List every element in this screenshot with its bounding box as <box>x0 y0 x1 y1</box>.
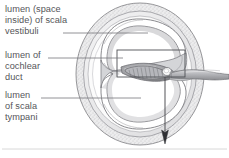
cochlear-nerve <box>171 70 229 80</box>
label-scala-tympani: lumen of scala tympani <box>5 90 38 124</box>
label-cochlear-duct: lumen of cochlear duct <box>5 50 41 84</box>
label-scala-vestibuli: lumen (space inside) of scala vestibuli <box>5 4 67 38</box>
